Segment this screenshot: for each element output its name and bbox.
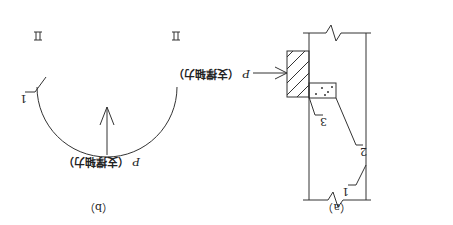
- caption-b: （b）: [84, 202, 113, 213]
- force-label-a: P （支撑轴力）: [173, 68, 250, 79]
- force-text-a: （支撑轴力）: [173, 67, 239, 80]
- break-line-top: [303, 25, 371, 41]
- caption-a: （a）: [322, 202, 351, 213]
- force-text-b: （支撑轴力）: [63, 155, 129, 168]
- concrete-block-2: [309, 83, 336, 98]
- diagram-stage: （a） （b） P （支撑轴力） P （支撑轴力） 1 2 3 1: [0, 0, 453, 225]
- leader-3-a: [309, 97, 323, 115]
- leader-1-a: [348, 165, 366, 185]
- force-label-b: P （支撑轴力）: [63, 156, 140, 167]
- diagram-b: [25, 32, 180, 157]
- diagram-drawing: [0, 0, 453, 225]
- support-right: [34, 32, 42, 40]
- force-symbol-a: P: [243, 67, 250, 80]
- callout-1-b: 1: [20, 93, 27, 104]
- force-symbol-b: P: [133, 155, 140, 168]
- support-left: [172, 32, 180, 40]
- callout-1-a: 1: [342, 186, 349, 197]
- callout-3-a: 3: [320, 116, 327, 127]
- leader-1-b: [25, 77, 46, 92]
- leader-2-a: [336, 98, 363, 145]
- callout-2-a: 2: [360, 146, 367, 157]
